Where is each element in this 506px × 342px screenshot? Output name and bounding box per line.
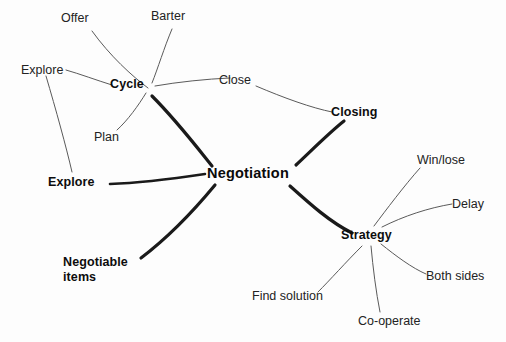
negotiable-items-line-2: items xyxy=(63,270,128,285)
negotiable-items-line-1: Negotiable xyxy=(63,255,128,270)
edge-cycle-to-plan xyxy=(117,93,146,130)
leaf-node-both-sides[interactable]: Both sides xyxy=(426,269,484,284)
edge-root-to-closing xyxy=(296,121,344,165)
edge-cycle-to-barter xyxy=(152,29,172,83)
leaf-node-plan[interactable]: Plan xyxy=(94,130,119,145)
mind-map-canvas: Negotiation Cycle Closing Explore Negoti… xyxy=(0,0,506,342)
leaf-node-close[interactable]: Close xyxy=(219,73,251,88)
leaf-node-offer[interactable]: Offer xyxy=(61,11,89,26)
edge-close-to-closing xyxy=(256,86,332,112)
edge-strategy-to-delay xyxy=(382,204,452,227)
edge-root-to-explore xyxy=(110,174,205,184)
edge-cycle-to-explore-leaf xyxy=(66,70,112,85)
leaf-node-co-operate[interactable]: Co-operate xyxy=(358,314,421,329)
leaf-node-delay[interactable]: Delay xyxy=(452,197,484,212)
root-node-negotiation[interactable]: Negotiation xyxy=(207,165,289,182)
edge-strategy-to-find-solution xyxy=(318,246,362,292)
branch-node-strategy[interactable]: Strategy xyxy=(341,228,392,243)
edge-root-to-negotiable-items xyxy=(141,185,215,258)
leaf-node-explore[interactable]: Explore xyxy=(21,63,63,78)
edge-strategy-to-co-operate xyxy=(371,246,380,312)
edge-strategy-to-both-sides xyxy=(381,244,426,274)
edge-strategy-to-win-lose xyxy=(374,168,420,226)
edge-explore-leaf-to-explore xyxy=(46,76,72,172)
edge-root-to-cycle xyxy=(152,96,212,166)
branch-node-cycle[interactable]: Cycle xyxy=(110,77,144,92)
edge-root-to-strategy xyxy=(290,186,352,233)
branch-node-negotiable-items[interactable]: Negotiable items xyxy=(63,255,128,285)
leaf-node-barter[interactable]: Barter xyxy=(151,9,185,24)
leaf-node-find-solution[interactable]: Find solution xyxy=(252,289,323,304)
branch-node-closing[interactable]: Closing xyxy=(331,105,378,120)
leaf-node-win-lose[interactable]: Win/lose xyxy=(417,153,465,168)
branch-node-explore[interactable]: Explore xyxy=(48,175,95,190)
